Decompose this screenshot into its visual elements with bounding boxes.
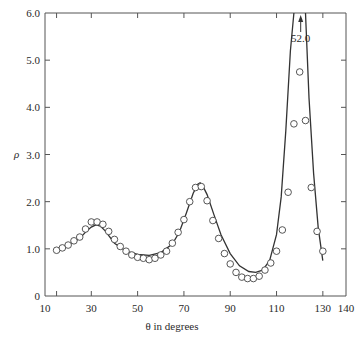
data-point	[111, 236, 118, 243]
data-point	[204, 197, 211, 204]
data-point	[157, 252, 164, 259]
data-point	[65, 242, 72, 249]
data-point	[71, 238, 78, 245]
data-point	[314, 228, 321, 235]
data-point	[273, 248, 280, 255]
data-point	[302, 117, 309, 124]
arrowhead-icon	[298, 15, 303, 22]
data-point	[100, 221, 107, 228]
data-point	[227, 261, 234, 268]
data-point	[117, 243, 124, 250]
data-point	[279, 227, 286, 234]
axis-ticks	[45, 13, 346, 296]
data-point	[285, 189, 292, 196]
data-point	[123, 248, 130, 255]
data-point	[296, 69, 303, 76]
annotations: 52.0	[291, 15, 311, 44]
measured-points	[53, 69, 326, 282]
data-point	[186, 198, 193, 205]
data-point	[82, 226, 89, 233]
x-tick-label: 140	[338, 302, 355, 314]
data-point	[105, 228, 112, 235]
plot-frame	[45, 13, 346, 296]
data-point	[291, 121, 298, 128]
x-tick-label: 90	[225, 302, 237, 314]
data-point	[308, 184, 315, 191]
y-tick-label: 5.0	[26, 54, 40, 66]
x-tick-label: 30	[86, 302, 98, 314]
x-tick-label: 70	[178, 302, 190, 314]
data-point	[262, 267, 269, 274]
data-point	[233, 269, 240, 276]
data-point	[181, 216, 188, 223]
y-tick-label: 4.0	[26, 101, 40, 113]
x-tick-label: 130	[315, 302, 332, 314]
data-point	[175, 229, 182, 236]
peak-value-label: 52.0	[291, 32, 311, 44]
theory-line-right	[306, 13, 323, 261]
data-point	[221, 250, 228, 257]
data-point	[198, 183, 205, 190]
data-point	[76, 234, 83, 241]
y-tick-label: 0	[35, 290, 41, 302]
data-point	[210, 217, 217, 224]
data-point	[169, 240, 176, 247]
y-tick-label: 2.0	[26, 196, 40, 208]
y-tick-label: 3.0	[26, 149, 40, 161]
tick-labels: 103050709011013014001.02.03.04.05.06.0	[26, 7, 355, 314]
y-axis-title: ρ	[13, 148, 19, 160]
y-tick-label: 1.0	[26, 243, 40, 255]
data-point	[215, 235, 222, 242]
x-tick-label: 110	[268, 302, 285, 314]
x-tick-label: 50	[132, 302, 144, 314]
resonance-chart: 103050709011013014001.02.03.04.05.06.0 ρ…	[0, 0, 362, 339]
data-point	[256, 273, 263, 280]
data-point	[320, 248, 327, 255]
data-point	[163, 248, 170, 255]
x-axis-title: θ in degrees	[146, 320, 199, 332]
y-tick-label: 6.0	[26, 7, 40, 19]
data-point	[267, 260, 274, 267]
x-tick-label: 10	[40, 302, 52, 314]
